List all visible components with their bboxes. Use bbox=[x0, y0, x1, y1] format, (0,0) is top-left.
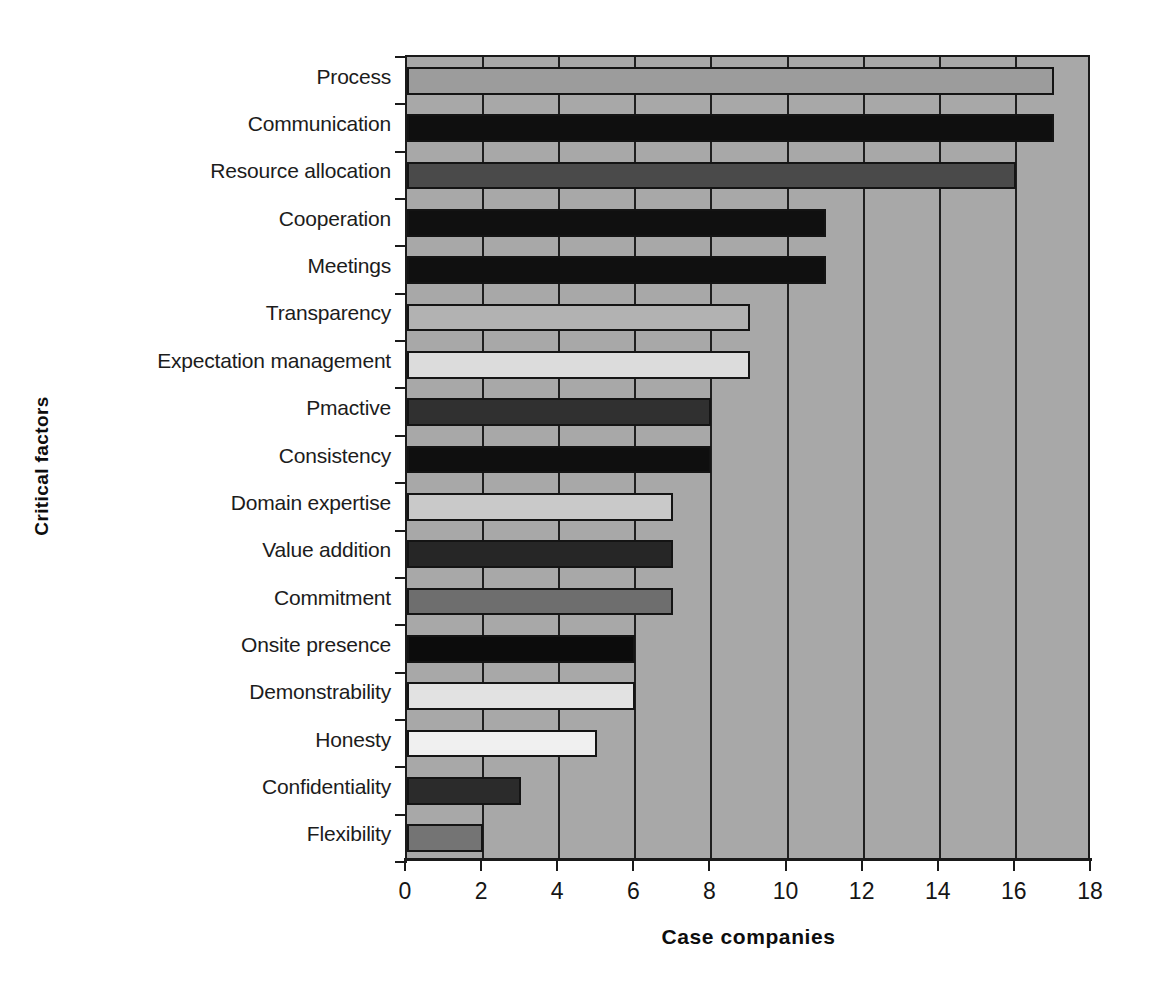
y-tick bbox=[395, 482, 407, 484]
y-axis-label-onsite-presence: Onsite presence bbox=[241, 633, 391, 657]
bar-row bbox=[407, 351, 1088, 379]
y-axis-label-confidentiality: Confidentiality bbox=[262, 775, 391, 799]
x-tick-label-14: 14 bbox=[908, 878, 968, 905]
y-tick bbox=[395, 151, 407, 153]
bar-row bbox=[407, 304, 1088, 332]
bar bbox=[407, 730, 597, 758]
y-tick bbox=[395, 530, 407, 532]
y-axis-label-meetings: Meetings bbox=[307, 254, 391, 278]
bar bbox=[407, 304, 750, 332]
x-tick-16 bbox=[1013, 858, 1015, 871]
x-tick-label-0: 0 bbox=[375, 878, 435, 905]
bar bbox=[407, 588, 673, 616]
x-tick-6 bbox=[632, 858, 634, 871]
bar-chart-figure: Critical factors ProcessCommunicationRes… bbox=[0, 0, 1153, 1004]
bar-row bbox=[407, 162, 1088, 190]
x-tick-14 bbox=[937, 858, 939, 871]
bar-row bbox=[407, 540, 1088, 568]
bar bbox=[407, 256, 826, 284]
bar bbox=[407, 824, 483, 852]
x-tick-label-6: 6 bbox=[603, 878, 663, 905]
x-tick-2 bbox=[480, 858, 482, 871]
x-tick-label-2: 2 bbox=[451, 878, 511, 905]
x-tick-label-18: 18 bbox=[1060, 878, 1120, 905]
y-tick bbox=[395, 56, 407, 58]
bar-row bbox=[407, 67, 1088, 95]
y-axis-label-process: Process bbox=[317, 65, 391, 89]
bar bbox=[407, 67, 1054, 95]
y-axis-label-commitment: Commitment bbox=[274, 586, 391, 610]
bar-row bbox=[407, 209, 1088, 237]
y-tick bbox=[395, 293, 407, 295]
y-axis-label-flexibility: Flexibility bbox=[307, 822, 391, 846]
x-tick-label-16: 16 bbox=[984, 878, 1044, 905]
bar bbox=[407, 777, 521, 805]
bar-rows bbox=[407, 57, 1088, 858]
y-axis-label-value-addition: Value addition bbox=[262, 538, 391, 562]
y-axis-label-cooperation: Cooperation bbox=[279, 207, 391, 231]
y-tick bbox=[395, 719, 407, 721]
bar-row bbox=[407, 114, 1088, 142]
bar-row bbox=[407, 398, 1088, 426]
bar-row bbox=[407, 493, 1088, 521]
bar-row bbox=[407, 635, 1088, 663]
y-axis-label-consistency: Consistency bbox=[279, 444, 391, 468]
bar bbox=[407, 682, 635, 710]
y-tick bbox=[395, 624, 407, 626]
bar bbox=[407, 493, 673, 521]
bar bbox=[407, 446, 711, 474]
x-tick-10 bbox=[785, 858, 787, 871]
x-tick-label-10: 10 bbox=[756, 878, 816, 905]
x-tick-4 bbox=[556, 858, 558, 871]
x-axis-line bbox=[405, 858, 1092, 861]
x-tick-label-4: 4 bbox=[527, 878, 587, 905]
y-tick bbox=[395, 103, 407, 105]
bar-row bbox=[407, 682, 1088, 710]
y-tick bbox=[395, 766, 407, 768]
bar-row bbox=[407, 730, 1088, 758]
x-tick-0 bbox=[404, 858, 406, 871]
y-axis-label-expectation-management: Expectation management bbox=[157, 349, 391, 373]
plot-area bbox=[405, 55, 1090, 860]
y-tick bbox=[395, 577, 407, 579]
y-tick bbox=[395, 814, 407, 816]
bar bbox=[407, 351, 750, 379]
y-axis-label-domain-expertise: Domain expertise bbox=[231, 491, 391, 515]
y-tick bbox=[395, 198, 407, 200]
bar-row bbox=[407, 256, 1088, 284]
bar bbox=[407, 114, 1054, 142]
y-axis-label-honesty: Honesty bbox=[315, 728, 391, 752]
x-tick-8 bbox=[708, 858, 710, 871]
y-tick bbox=[395, 672, 407, 674]
x-tick-label-12: 12 bbox=[832, 878, 892, 905]
bar-row bbox=[407, 588, 1088, 616]
y-tick bbox=[395, 435, 407, 437]
y-tick bbox=[395, 387, 407, 389]
y-tick bbox=[395, 245, 407, 247]
bar-row bbox=[407, 824, 1088, 852]
y-axis-title: Critical factors bbox=[31, 356, 53, 576]
y-axis-label-transparency: Transparency bbox=[266, 301, 391, 325]
bar-row bbox=[407, 446, 1088, 474]
bar bbox=[407, 635, 635, 663]
y-axis-label-demonstrability: Demonstrability bbox=[249, 680, 391, 704]
x-tick-label-8: 8 bbox=[679, 878, 739, 905]
x-tick-12 bbox=[861, 858, 863, 871]
bar-row bbox=[407, 777, 1088, 805]
bar bbox=[407, 398, 711, 426]
y-axis-label-resource-allocation: Resource allocation bbox=[210, 159, 391, 183]
y-axis-label-pmactive: Pmactive bbox=[306, 396, 391, 420]
y-tick bbox=[395, 340, 407, 342]
bar bbox=[407, 162, 1016, 190]
y-axis-label-communication: Communication bbox=[248, 112, 391, 136]
x-tick-18 bbox=[1089, 858, 1091, 871]
bar bbox=[407, 540, 673, 568]
bar bbox=[407, 209, 826, 237]
x-axis-title: Case companies bbox=[405, 925, 1092, 949]
